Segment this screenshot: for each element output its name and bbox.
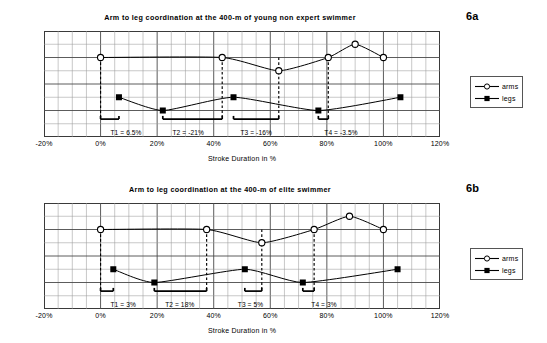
- x-tick-label: 0%: [95, 140, 106, 147]
- series-line-arms: [101, 216, 384, 243]
- x-tick-label: 40%: [206, 140, 221, 147]
- panel-6a: Arm to leg coordination at the 400-m of …: [0, 0, 547, 171]
- legend-6a: arms legs: [470, 76, 523, 108]
- annotation-label-t3: T3 = -16%: [240, 129, 272, 136]
- legend-label-legs: legs: [502, 267, 516, 274]
- data-point-arms: [380, 54, 386, 60]
- legend-item-legs: legs: [474, 92, 518, 104]
- legend-item-arms: arms: [474, 80, 518, 92]
- legend-label-legs: legs: [502, 95, 516, 102]
- x-tick-label: 120%: [431, 140, 450, 147]
- annotation-label-t1: T1 = 3%: [110, 301, 135, 308]
- legend-6b: arms legs: [470, 248, 523, 280]
- x-tick-label: 120%: [431, 312, 450, 319]
- x-axis-label-6b: Stroke Duration in %: [44, 327, 440, 334]
- data-point-arms: [325, 54, 331, 60]
- legend-item-arms: arms: [474, 252, 518, 264]
- data-point-legs: [231, 94, 237, 100]
- arms-marker-icon: [474, 253, 500, 264]
- x-tick-label: 80%: [320, 312, 335, 319]
- data-point-arms: [219, 54, 225, 60]
- arms-marker-icon: [474, 81, 500, 92]
- legs-marker-icon: [474, 265, 500, 276]
- annotation-t2: [154, 288, 206, 291]
- annotation-label-t2: T2 = -21%: [172, 129, 204, 136]
- x-tick-label: 20%: [150, 140, 165, 147]
- annotation-label-t4: T4 = -3.5%: [324, 129, 357, 136]
- data-point-legs: [315, 108, 321, 114]
- data-point-legs: [300, 280, 306, 286]
- panel-6b: Arm to leg coordination at the 400-m of …: [0, 172, 547, 343]
- series-line-arms: [101, 44, 384, 71]
- x-axis-ticks-6b: -20%0%20%40%60%80%100%120%: [0, 312, 547, 324]
- data-point-legs: [242, 266, 248, 272]
- data-layer-6b: [44, 203, 440, 309]
- data-point-arms: [346, 213, 352, 219]
- plot-area-6a: [44, 31, 440, 137]
- annotation-t3: [245, 288, 262, 291]
- x-tick-label: 40%: [206, 312, 221, 319]
- annotation-label-t3: T3 = 5%: [238, 301, 263, 308]
- legs-marker-icon: [474, 93, 500, 104]
- data-point-arms: [204, 226, 210, 232]
- legend-label-arms: arms: [502, 255, 518, 262]
- data-point-legs: [110, 266, 116, 272]
- annotation-label-t2: T2 = 18%: [165, 301, 194, 308]
- data-point-arms: [259, 240, 265, 246]
- annotation-t3: [234, 116, 279, 119]
- annotation-label-t1: T1 = 6.5%: [110, 129, 141, 136]
- data-point-arms: [276, 68, 282, 74]
- annotation-t4: [303, 288, 314, 291]
- x-tick-label: -20%: [35, 312, 52, 319]
- x-tick-label: 60%: [263, 140, 278, 147]
- x-axis-ticks-6a: -20%0%20%40%60%80%100%120%: [0, 140, 547, 152]
- x-tick-label: -20%: [35, 140, 52, 147]
- data-point-arms: [352, 41, 358, 47]
- legend-item-legs: legs: [474, 264, 518, 276]
- data-point-legs: [397, 94, 403, 100]
- data-point-arms: [311, 226, 317, 232]
- annotation-label-t4: T4 = 3%: [311, 301, 336, 308]
- x-tick-label: 100%: [374, 312, 393, 319]
- data-point-arms: [97, 226, 103, 232]
- data-point-legs: [116, 94, 122, 100]
- x-tick-label: 20%: [150, 312, 165, 319]
- data-point-legs: [160, 108, 166, 114]
- panel-label-6b: 6b: [466, 182, 479, 194]
- x-tick-label: 0%: [95, 312, 106, 319]
- annotation-t1: [101, 288, 114, 291]
- chart-title-6a: Arm to leg coordination at the 400-m of …: [0, 13, 460, 22]
- panel-label-6a: 6a: [466, 10, 479, 22]
- annotation-t2: [163, 116, 222, 119]
- data-layer-6a: [44, 31, 440, 137]
- data-point-legs: [395, 266, 401, 272]
- data-point-legs: [151, 280, 157, 286]
- x-tick-label: 60%: [263, 312, 278, 319]
- x-tick-label: 100%: [374, 140, 393, 147]
- legend-label-arms: arms: [502, 83, 518, 90]
- annotation-t4: [318, 116, 328, 119]
- data-point-arms: [380, 226, 386, 232]
- plot-area-6b: [44, 203, 440, 309]
- annotation-t1: [101, 116, 119, 119]
- x-tick-label: 80%: [320, 140, 335, 147]
- chart-title-6b: Arm to leg coordination at the 400-m of …: [0, 185, 460, 194]
- x-axis-label-6a: Stroke Duration in %: [44, 155, 440, 162]
- data-point-arms: [97, 54, 103, 60]
